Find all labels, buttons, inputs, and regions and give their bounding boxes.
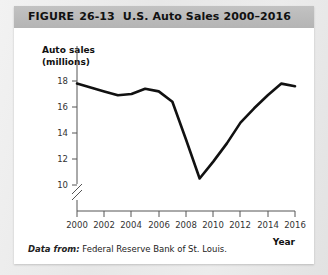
x-tick-label-2008: 2008 (175, 220, 197, 230)
source-note: Data from: Federal Reserve Bank of St. L… (28, 244, 227, 254)
x-tick-label-2014: 2014 (257, 220, 279, 230)
figure-label: FIGURE (28, 10, 74, 23)
source-lead: Data from: (28, 244, 80, 254)
x-tick-label-2004: 2004 (120, 220, 142, 230)
x-tick-label-2006: 2006 (148, 220, 170, 230)
y-axis-tick-labels: 10 12 14 16 18 (57, 76, 68, 190)
data-series-line (77, 84, 295, 179)
y-tick-label-10: 10 (57, 180, 68, 190)
x-tick-label-2012: 2012 (229, 220, 251, 230)
x-tick-label-2002: 2002 (93, 220, 115, 230)
x-tick-label-2000: 2000 (66, 220, 88, 230)
y-axis-title-line2: (millions) (42, 57, 90, 67)
y-tick-label-18: 18 (57, 76, 68, 86)
auto-sales-line-chart: Auto sales (millions) (14, 28, 314, 264)
y-tick-label-14: 14 (57, 128, 68, 138)
y-tick-label-12: 12 (57, 154, 68, 164)
chart-area: Auto sales (millions) (14, 28, 314, 264)
x-tick-label-2016: 2016 (284, 220, 306, 230)
figure-card: FIGURE26-13U.S. Auto Sales 2000–2016 Aut… (14, 6, 314, 264)
x-axis-tick-labels: 2000 2002 2004 2006 2008 2010 2012 2014 … (66, 220, 306, 230)
x-tick-label-2010: 2010 (202, 220, 224, 230)
y-axis-ticks (72, 81, 77, 185)
y-tick-label-16: 16 (57, 102, 68, 112)
figure-number: 26-13 (79, 10, 115, 23)
figure-subtitle: U.S. Auto Sales 2000–2016 (123, 10, 291, 23)
x-axis-ticks (77, 211, 295, 217)
page-background: FIGURE26-13U.S. Auto Sales 2000–2016 Aut… (0, 0, 328, 275)
source-text: Federal Reserve Bank of St. Louis. (82, 244, 227, 254)
y-axis-title-line1: Auto sales (42, 45, 95, 55)
y-axis-break-mark-2 (72, 190, 82, 200)
figure-title: FIGURE26-13U.S. Auto Sales 2000–2016 (28, 10, 291, 23)
x-axis-title: Year (272, 237, 296, 247)
